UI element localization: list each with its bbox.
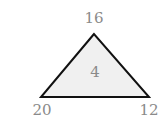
bottom-left-vertex-number: 20 (27, 103, 57, 118)
bottom-right-vertex-number: 12 (134, 103, 161, 118)
center-number: 4 (80, 65, 110, 80)
top-vertex-number: 16 (79, 11, 109, 26)
